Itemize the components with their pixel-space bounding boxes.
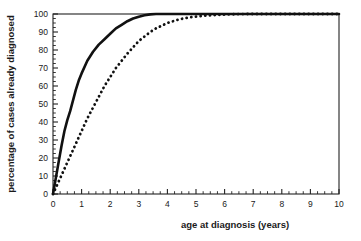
x-tick-label-7: 7 — [251, 199, 256, 209]
y-tick-label-30: 30 — [39, 135, 49, 145]
chart-figure: 012345678910 0102030405060708090100 age … — [0, 0, 361, 241]
x-tick-label-9: 9 — [308, 199, 313, 209]
y-tick-label-50: 50 — [39, 99, 49, 109]
x-axis-title: age at diagnosis (years) — [181, 219, 289, 230]
y-axis-tick-labels: 0102030405060708090100 — [34, 9, 48, 199]
x-tick-label-8: 8 — [279, 199, 284, 209]
x-tick-label-5: 5 — [194, 199, 199, 209]
x-axis-tick-labels: 012345678910 — [51, 199, 344, 209]
y-tick-label-70: 70 — [39, 63, 49, 73]
y-tick-label-40: 40 — [39, 117, 49, 127]
series-path-1 — [53, 14, 339, 194]
x-tick-label-4: 4 — [165, 199, 170, 209]
data-series-layer — [53, 14, 339, 194]
y-tick-label-60: 60 — [39, 81, 49, 91]
chart-canvas: 012345678910 0102030405060708090100 age … — [0, 0, 361, 241]
y-tick-label-90: 90 — [39, 27, 49, 37]
x-tick-label-0: 0 — [51, 199, 56, 209]
x-tick-label-6: 6 — [222, 199, 227, 209]
y-axis-title: percentage of cases already diagnosed — [5, 15, 16, 193]
x-tick-label-3: 3 — [136, 199, 141, 209]
y-tick-label-10: 10 — [39, 171, 49, 181]
x-tick-label-1: 1 — [79, 199, 84, 209]
y-tick-label-100: 100 — [34, 9, 48, 19]
x-tick-label-10: 10 — [334, 199, 344, 209]
y-tick-label-0: 0 — [43, 189, 48, 199]
y-tick-label-80: 80 — [39, 45, 49, 55]
x-tick-label-2: 2 — [108, 199, 113, 209]
y-tick-label-20: 20 — [39, 153, 49, 163]
